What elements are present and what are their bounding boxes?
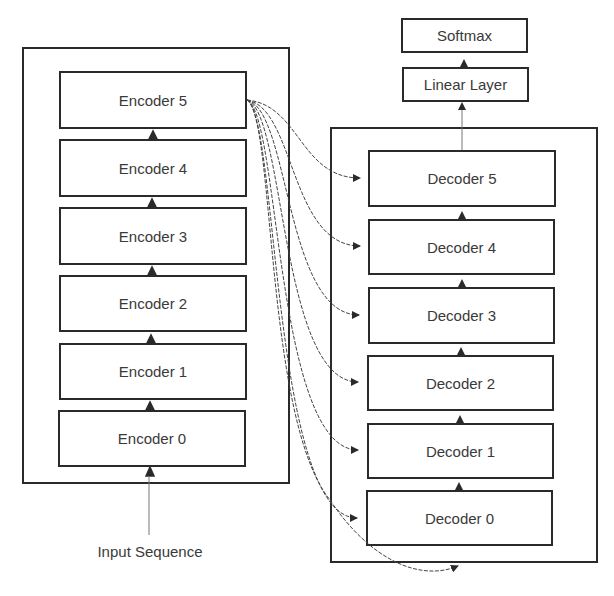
decoder-block-label: Decoder 0	[425, 510, 494, 527]
decoder-block-label: Decoder 5	[427, 170, 496, 187]
decoder-block-label: Decoder 3	[427, 307, 496, 324]
decoder-block-5: Decoder 5	[368, 150, 556, 207]
encoder-block-3: Encoder 3	[59, 207, 247, 265]
encoder-block-5: Encoder 5	[59, 71, 247, 129]
encoder-block-label: Encoder 1	[119, 363, 187, 380]
encoder-block-label: Encoder 5	[119, 92, 187, 109]
encoder-block-4: Encoder 4	[59, 139, 247, 197]
decoder-block-label: Decoder 1	[426, 443, 495, 460]
arrow-up-icon	[460, 59, 468, 67]
decoder-block-0: Decoder 0	[366, 490, 553, 546]
encoder-block-label: Encoder 0	[118, 430, 186, 447]
softmax-label: Softmax	[437, 27, 492, 44]
softmax-block: Softmax	[401, 18, 528, 53]
decoder-block-4: Decoder 4	[368, 219, 555, 275]
decoder-block-2: Decoder 2	[367, 355, 554, 411]
encoder-block-2: Encoder 2	[59, 275, 247, 332]
encoder-block-1: Encoder 1	[59, 343, 247, 400]
encoder-block-label: Encoder 3	[119, 228, 187, 245]
decoder-block-label: Decoder 2	[426, 375, 495, 392]
encoder-block-label: Encoder 4	[119, 160, 187, 177]
encoder-block-label: Encoder 2	[119, 295, 187, 312]
decoder-block-3: Decoder 3	[368, 287, 555, 344]
linear-layer-label: Linear Layer	[424, 76, 507, 93]
input-sequence-label: Input Sequence	[80, 543, 220, 560]
encoder-block-0: Encoder 0	[58, 410, 246, 467]
linear-layer-block: Linear Layer	[402, 67, 529, 102]
arrow-up-icon	[458, 102, 466, 110]
decoder-block-1: Decoder 1	[367, 423, 554, 479]
decoder-block-label: Decoder 4	[427, 239, 496, 256]
